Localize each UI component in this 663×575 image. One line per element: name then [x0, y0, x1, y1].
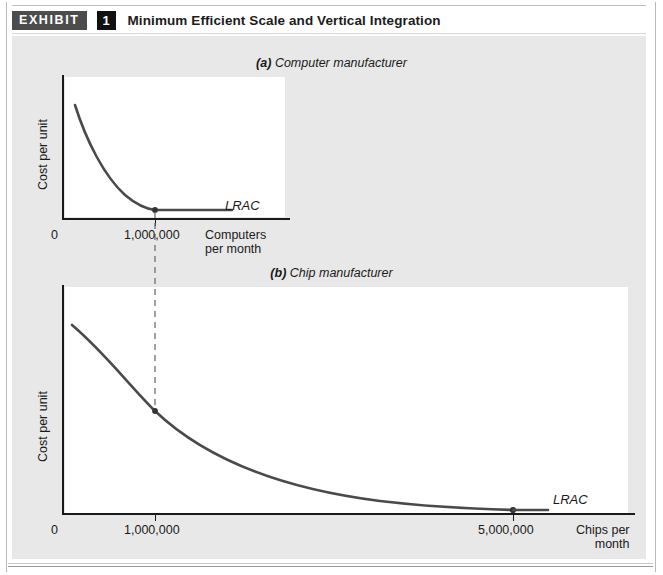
page-frame-left — [6, 2, 7, 572]
chart-a-x-axis — [62, 218, 290, 220]
chart-b-xtick-label-0: 0 — [51, 523, 58, 537]
chart-b-x-axis-title-line2: month — [576, 537, 630, 551]
header-divider — [12, 33, 646, 34]
exhibit-badge: EXHIBIT — [12, 11, 87, 30]
page-frame-bottom-light — [8, 563, 653, 564]
chart-a-y-axis — [62, 75, 64, 219]
chart-b-x-axis — [62, 513, 635, 515]
exhibit-number-badge: 1 — [97, 11, 116, 30]
chart-a-xtick-label-1m: 1,000,000 — [124, 228, 180, 242]
chart-a-part-label: (a) — [256, 56, 271, 70]
chart-b-lrac-label: LRAC — [553, 492, 588, 507]
chart-b-xtick-5m — [513, 515, 514, 521]
chart-a-xtick-1m — [155, 220, 156, 226]
chart-a-x-axis-title-line1: Computers — [205, 228, 266, 242]
page-frame-bottom — [8, 566, 653, 567]
chart-b-xtick-label-1m: 1,000,000 — [124, 523, 180, 537]
chart-b-part-label: (b) — [270, 266, 286, 280]
chart-b-subtitle-text: Chip manufacturer — [290, 266, 393, 280]
chart-b-y-axis — [62, 285, 64, 514]
page-frame-top — [12, 5, 646, 6]
chart-b-xtick-1m — [155, 515, 156, 521]
chart-a-lrac-label: LRAC — [225, 198, 260, 213]
chart-b-x-axis-title-line1: Chips per — [576, 523, 630, 537]
chart-b-subtitle: (b) Chip manufacturer — [0, 266, 663, 280]
chart-b-x-axis-title: Chips per month — [576, 523, 630, 551]
exhibit-page: EXHIBIT 1 Minimum Efficient Scale and Ve… — [0, 0, 663, 575]
chart-a-x-axis-title-line2: per month — [205, 242, 266, 256]
chart-a-subtitle-text: Computer manufacturer — [275, 56, 407, 70]
chart-a-plot-area — [65, 77, 285, 217]
exhibit-title: Minimum Efficient Scale and Vertical Int… — [128, 13, 441, 28]
chart-a-subtitle: (a) Computer manufacturer — [0, 56, 663, 70]
page-frame-right — [655, 2, 656, 572]
chart-b-plot-area — [65, 287, 628, 513]
chart-a-x-axis-title: Computers per month — [205, 228, 266, 256]
chart-a-y-axis-label: Cost per unit — [36, 119, 50, 190]
chart-a-xtick-label-0: 0 — [51, 228, 58, 242]
chart-b-xtick-label-5m: 5,000,000 — [478, 523, 534, 537]
chart-b-y-axis-label: Cost per unit — [36, 391, 50, 462]
exhibit-header: EXHIBIT 1 Minimum Efficient Scale and Ve… — [12, 9, 646, 31]
